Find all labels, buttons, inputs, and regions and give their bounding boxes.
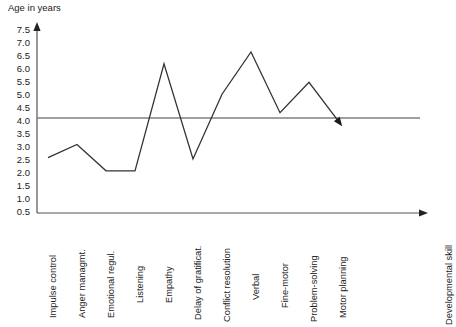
- y-axis-arrow-icon: [33, 22, 40, 31]
- chart-container: Age in years 7.5 7.0 6.5 6.0 5.5 5.0 4.5…: [0, 0, 456, 327]
- x-category-label-listening: Listening: [135, 266, 145, 303]
- x-category-label-motor-planning: Motor planning: [338, 256, 348, 318]
- x-category-label-problem-solving: Problem-solving: [309, 255, 319, 322]
- x-axis-arrow-icon: [419, 209, 428, 216]
- x-category-label-anger-managmt: Anger managmt.: [77, 249, 87, 318]
- data-series-line: [48, 52, 338, 171]
- x-category-label-conflict-resolution: Conflict resolution: [222, 248, 232, 322]
- x-category-label-verbal: Verbal: [251, 274, 261, 300]
- x-category-label-impulse-control: Impulse control: [48, 255, 58, 318]
- x-category-label-emotional-regul: Emotional regul.: [106, 251, 116, 318]
- x-category-label-delay-of-gratificat: Delay of gratificat.: [193, 246, 203, 320]
- x-axis-title: Developmental skill: [444, 245, 454, 325]
- x-category-label-empathy: Empathy: [164, 266, 174, 303]
- x-category-label-fine-motor: Fine-motor: [280, 263, 290, 308]
